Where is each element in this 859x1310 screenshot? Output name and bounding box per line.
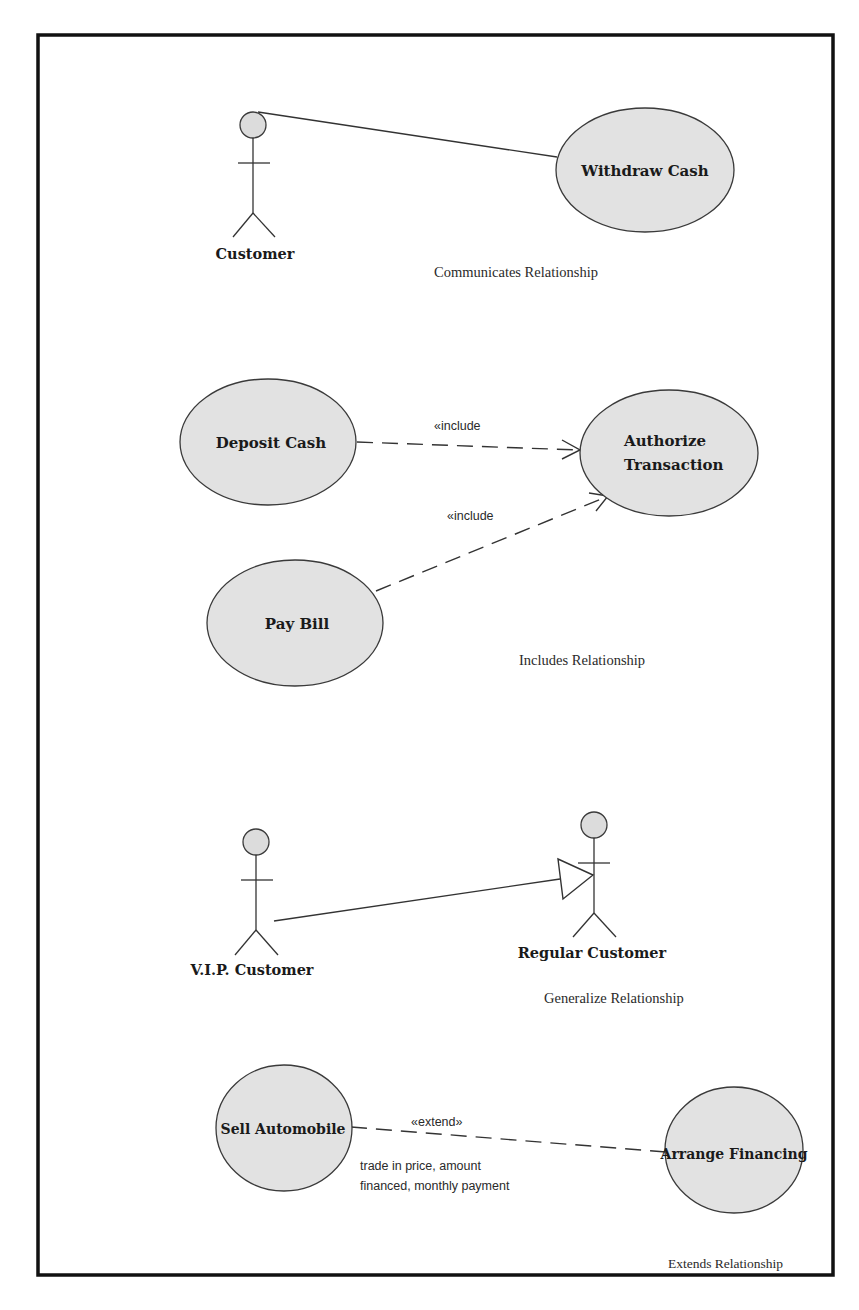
extends-section: «extend» trade in price, amount financed…	[216, 1065, 808, 1271]
association-line	[258, 112, 557, 157]
use-case-sell-automobile-label: Sell Automobile	[221, 1121, 346, 1137]
actor-customer-label: Customer	[216, 245, 295, 262]
extend-line	[351, 1127, 666, 1152]
actor-vip-customer-label: V.I.P. Customer	[189, 961, 313, 978]
use-case-sell-automobile[interactable]: Sell Automobile	[216, 1065, 352, 1191]
include-stereotype-1: «include	[434, 419, 481, 433]
actor-regular-customer-label: Regular Customer	[518, 944, 667, 961]
generalization-line	[274, 879, 560, 921]
caption-communicates: Communicates Relationship	[434, 264, 598, 280]
use-case-pay-bill[interactable]: Pay Bill	[207, 560, 383, 686]
use-case-arrange-financing-label: Arrange Financing	[660, 1146, 808, 1162]
extend-note-line2: financed, monthly payment	[360, 1179, 510, 1193]
use-case-pay-bill-label: Pay Bill	[265, 615, 330, 633]
generalize-section: V.I.P. Customer Regular Customer General…	[189, 812, 683, 1006]
extend-note-line1: trade in price, amount	[360, 1159, 481, 1173]
communicates-section: Customer Withdraw Cash Communicates Rela…	[216, 108, 734, 280]
includes-section: «include «include Deposit Cash Authorize…	[180, 379, 758, 686]
use-case-authorize-label-line2: Transaction	[624, 456, 724, 474]
use-case-authorize-label-line1: Authorize	[623, 432, 706, 450]
caption-includes: Includes Relationship	[519, 652, 645, 668]
use-case-diagram: Customer Withdraw Cash Communicates Rela…	[0, 0, 859, 1310]
include-line-deposit	[357, 442, 578, 450]
use-case-arrange-financing[interactable]: Arrange Financing	[660, 1087, 808, 1213]
actor-customer-icon[interactable]	[233, 112, 275, 237]
use-case-deposit-cash-label: Deposit Cash	[216, 434, 326, 452]
extend-stereotype: «extend»	[411, 1115, 462, 1129]
use-case-deposit-cash[interactable]: Deposit Cash	[180, 379, 356, 505]
use-case-withdraw-cash-label: Withdraw Cash	[580, 162, 708, 180]
include-stereotype-2: «include	[447, 509, 494, 523]
actor-vip-customer-icon[interactable]	[235, 829, 278, 955]
use-case-withdraw-cash[interactable]: Withdraw Cash	[556, 108, 734, 232]
caption-extends: Extends Relationship	[668, 1256, 783, 1271]
caption-generalize: Generalize Relationship	[544, 990, 684, 1006]
generalization-triangle-icon	[558, 859, 593, 899]
use-case-authorize-transaction[interactable]: Authorize Transaction	[580, 390, 758, 516]
